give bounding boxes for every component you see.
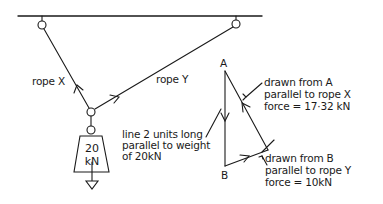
- note-weight-line3: of 20kN: [122, 151, 161, 162]
- weight-arrow-icon: [86, 181, 98, 189]
- note-a-line3: force = 17·32 kN: [264, 101, 350, 112]
- leader-b-arrow-icon: [259, 156, 263, 159]
- note-a-line1: drawn from A: [264, 77, 333, 88]
- weight-ring-icon: [87, 126, 95, 134]
- junction-ring-icon: [87, 108, 95, 116]
- note-b-line3: force = 10kN: [265, 177, 332, 188]
- vertex-b-label: B: [221, 170, 228, 181]
- weight-unit: kN: [77, 155, 107, 168]
- rope-x-label: rope X: [32, 76, 65, 87]
- note-b-line1: drawn from B: [265, 153, 334, 164]
- weight-value: 20: [77, 142, 107, 155]
- left-pulley-icon: [38, 21, 46, 29]
- vertex-a-label: A: [220, 58, 227, 69]
- triangle-side-y: [225, 150, 268, 166]
- leader-a-arrow-icon: [243, 94, 246, 100]
- rope-x: [44, 29, 89, 108]
- force-diagram: rope X rope Y 20 kN A B line 2 units lon…: [0, 0, 383, 204]
- note-b-line2: parallel to rope Y: [265, 165, 351, 176]
- leader-weight: [206, 109, 221, 137]
- rope-y-label: rope Y: [156, 74, 188, 85]
- leader-a: [246, 83, 262, 97]
- note-a-line2: parallel to rope X: [264, 89, 351, 100]
